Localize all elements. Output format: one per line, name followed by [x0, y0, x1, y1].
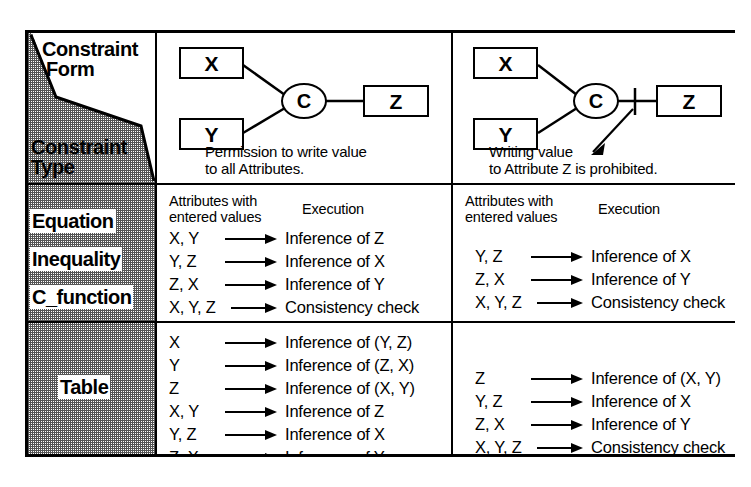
arrow-icon	[225, 406, 279, 418]
execution-row: X Inference of (Y, Z)	[169, 331, 419, 354]
execution-row: Y Inference of (Z, X)	[169, 354, 419, 377]
execution-row-result: Inference of Y	[285, 448, 385, 454]
execution-cell-table-permission: X Inference of (Y, Z) Y Inference of (Z,…	[157, 323, 451, 454]
execution-rows: X Inference of (Y, Z) Y Inference of (Z,…	[169, 331, 419, 454]
execution-row: X, Y Inference of Z	[169, 400, 419, 423]
execution-row: X, Y, Z Consistency check	[169, 296, 419, 319]
diagram-cell-prohibited: X Y C Z Writing value to Attribute Z is …	[453, 33, 735, 183]
execution-row-result: Inference of X	[285, 425, 385, 444]
execution-row-given: Y, Z	[169, 252, 225, 271]
constraint-node-c: C	[573, 83, 619, 119]
arrow-icon	[537, 442, 585, 454]
execution-row-given: Z, X	[475, 270, 531, 289]
figure-caption	[28, 466, 728, 487]
execution-row-given: X, Y, Z	[169, 298, 231, 317]
arrow-icon	[225, 256, 279, 268]
execution-header-execution: Execution	[302, 201, 364, 217]
row-label-cell-equation-group: Equation Inequality C_function	[28, 185, 155, 321]
diagram-cell-permission: X Y C Z Permission to write value to all…	[157, 33, 451, 183]
execution-cell-equation-prohibited: Attributes withentered values Execution …	[453, 185, 735, 321]
execution-row-result: Inference of (X, Y)	[285, 379, 415, 398]
execution-row-result: Consistency check	[285, 298, 419, 317]
execution-row-given: Z, X	[169, 448, 225, 454]
execution-rows: Y, Z Inference of X Z, X Inference of Y …	[475, 245, 725, 314]
execution-row: Z, X Inference of Y	[169, 273, 419, 296]
constraint-matrix-table: Constraint Form Constraint Type Equation…	[25, 30, 735, 457]
execution-row: X, Y, Z Consistency check	[475, 291, 725, 314]
header-constraint-form-line2: Form	[42, 59, 138, 79]
execution-row-result: Inference of Z	[285, 402, 384, 421]
execution-rows: Z Inference of (X, Y) Y, Z Inference of …	[475, 367, 725, 454]
arrow-icon	[225, 383, 279, 395]
header-constraint-form-line1: Constraint	[42, 39, 138, 59]
arrow-icon	[531, 274, 585, 286]
execution-cell-equation-permission: Attributes withentered values Execution …	[157, 185, 451, 321]
execution-header-line2: entered values	[465, 209, 557, 225]
execution-row: Y, Z Inference of X	[475, 390, 725, 413]
execution-row-given: Z, X	[169, 275, 225, 294]
execution-row-result: Inference of X	[591, 392, 691, 411]
arrow-icon	[225, 337, 279, 349]
execution-row-given: X	[169, 333, 225, 352]
execution-header-line1: Attributes with	[169, 193, 257, 209]
arrow-icon	[225, 360, 279, 372]
arrow-icon	[231, 302, 279, 314]
constraint-node-c-label: C	[589, 90, 603, 113]
execution-row: X, Y Inference of Z	[169, 227, 419, 250]
execution-row-given: X, Y, Z	[475, 438, 537, 454]
execution-row-result: Inference of Y	[285, 275, 385, 294]
execution-row-result: Inference of X	[591, 247, 691, 266]
execution-row-result: Consistency check	[591, 293, 725, 312]
header-constraint-form-label: Constraint Form	[42, 39, 138, 79]
execution-cell-table-prohibited: Z Inference of (X, Y) Y, Z Inference of …	[453, 323, 735, 454]
arrow-icon	[225, 233, 279, 245]
execution-row-given: X, Y	[169, 229, 225, 248]
execution-row-given: X, Y, Z	[475, 293, 537, 312]
execution-header-execution: Execution	[598, 201, 660, 217]
execution-row: Z, X Inference of Y	[169, 446, 419, 454]
execution-row-result: Inference of (X, Y)	[591, 369, 721, 388]
header-corner-cell: Constraint Form Constraint Type	[28, 33, 155, 183]
execution-row-result: Consistency check	[591, 438, 725, 454]
execution-header-attributes: Attributes withentered values	[169, 193, 261, 225]
execution-row-given: Z, X	[475, 415, 531, 434]
execution-row: X, Y, Z Consistency check	[475, 436, 725, 454]
arrow-icon	[531, 419, 585, 431]
execution-header-attributes: Attributes withentered values	[465, 193, 557, 225]
execution-header-line2: entered values	[169, 209, 261, 225]
header-constraint-type-line1: Constraint	[31, 137, 127, 157]
row-label-equation: Equation	[30, 209, 116, 233]
execution-row-result: Inference of (Z, X)	[285, 356, 414, 375]
execution-row-given: Y	[169, 356, 225, 375]
execution-rows: X, Y Inference of Z Y, Z Inference of X …	[169, 227, 419, 319]
row-label-c-function: C_function	[30, 285, 133, 309]
arrow-icon	[225, 452, 279, 455]
execution-row: Z Inference of (X, Y)	[169, 377, 419, 400]
execution-row-given: Y, Z	[475, 392, 531, 411]
arrow-icon	[531, 396, 585, 408]
execution-row-given: X, Y	[169, 402, 225, 421]
execution-row: Z Inference of (X, Y)	[475, 367, 725, 390]
arrow-icon	[225, 429, 279, 441]
execution-row-result: Inference of Z	[285, 229, 384, 248]
header-constraint-type-label: Constraint Type	[31, 137, 127, 177]
execution-row-result: Inference of Y	[591, 270, 691, 289]
execution-header-line1: Attributes with	[465, 193, 553, 209]
constraint-node-c: C	[281, 83, 327, 119]
row-label-inequality: Inequality	[30, 247, 122, 271]
execution-row-given: Y, Z	[169, 425, 225, 444]
arrow-icon	[531, 251, 585, 263]
header-constraint-type-line2: Type	[31, 157, 127, 177]
constraint-node-c-label: C	[297, 90, 311, 113]
execution-row: Y, Z Inference of X	[169, 250, 419, 273]
execution-row: Y, Z Inference of X	[475, 245, 725, 268]
execution-row-result: Inference of (Y, Z)	[285, 333, 412, 352]
execution-row: Z, X Inference of Y	[475, 268, 725, 291]
execution-row-given: Z	[475, 369, 531, 388]
row-label-table: Table	[58, 375, 110, 399]
arrow-icon	[531, 373, 585, 385]
execution-row: Y, Z Inference of X	[169, 423, 419, 446]
execution-row-given: Z	[169, 379, 225, 398]
execution-row-result: Inference of X	[285, 252, 385, 271]
arrow-icon	[537, 297, 585, 309]
